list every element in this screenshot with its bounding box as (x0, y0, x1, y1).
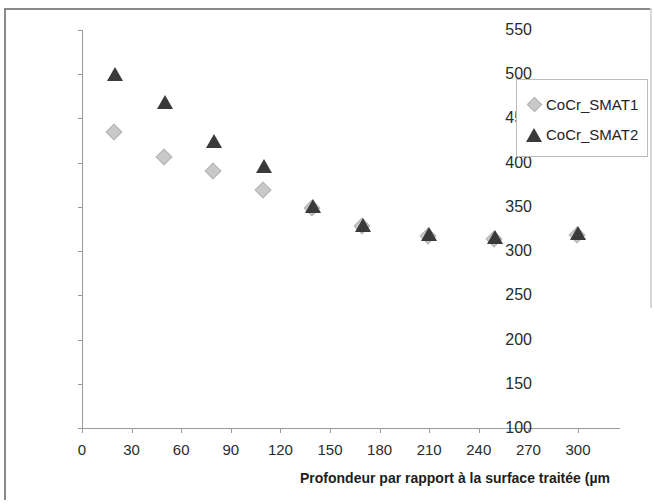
legend-label: CoCr_SMAT2 (546, 127, 638, 142)
x-axis-tick-label: 300 (553, 442, 603, 457)
figure-border-right (650, 8, 652, 308)
x-axis-tick-label: 120 (255, 442, 305, 457)
x-axis-tick-label: 270 (503, 442, 553, 457)
y-axis-tick-label: 200 (486, 332, 532, 348)
y-axis-tick-label: 550 (486, 22, 532, 38)
y-axis-tick-label: 100 (486, 420, 532, 436)
y-axis-tick (78, 163, 83, 164)
chart-figure: 1001502002503003504004505005500306090120… (0, 0, 654, 504)
y-axis-tick (78, 295, 83, 296)
y-axis-tick (78, 384, 83, 385)
y-axis-tick (78, 340, 83, 341)
x-axis-tick-label: 90 (206, 442, 256, 457)
x-axis-tick (181, 428, 182, 433)
y-axis-tick (78, 118, 83, 119)
legend-label: CoCr_SMAT1 (546, 97, 638, 112)
x-axis-tick (429, 428, 430, 433)
x-axis-tick (132, 428, 133, 433)
triangle-marker-icon (525, 125, 543, 143)
legend: CoCr_SMAT1 CoCr_SMAT2 (516, 79, 648, 157)
x-axis-tick (280, 428, 281, 433)
x-axis-tick (528, 428, 529, 433)
x-axis-tick (479, 428, 480, 433)
y-axis-tick (78, 207, 83, 208)
y-axis-tick-label: 250 (486, 287, 532, 303)
x-axis-tick (380, 428, 381, 433)
y-axis-tick-label: 400 (486, 155, 532, 171)
y-axis-line (82, 30, 83, 428)
y-axis-tick (78, 30, 83, 31)
diamond-marker-icon (525, 95, 543, 113)
y-axis-tick (78, 251, 83, 252)
legend-item-cocr-smat1[interactable]: CoCr_SMAT1 (525, 94, 638, 114)
x-axis-tick-label: 60 (156, 442, 206, 457)
y-axis-tick-label: 350 (486, 199, 532, 215)
x-axis-tick-label: 240 (454, 442, 504, 457)
x-axis-tick-label: 180 (355, 442, 405, 457)
x-axis-tick-label: 30 (107, 442, 157, 457)
x-axis-tick (578, 428, 579, 433)
x-axis-line (82, 428, 620, 429)
x-axis-tick-label: 150 (305, 442, 355, 457)
y-axis-tick (78, 74, 83, 75)
y-axis-tick-label: 150 (486, 376, 532, 392)
x-axis-tick (231, 428, 232, 433)
legend-item-cocr-smat2[interactable]: CoCr_SMAT2 (525, 124, 638, 144)
x-axis-tick-label: 210 (404, 442, 454, 457)
x-axis-tick (82, 428, 83, 433)
x-axis-tick (330, 428, 331, 433)
x-axis-title: Profondeur par rapport à la surface trai… (300, 470, 610, 486)
x-axis-tick-label: 0 (57, 442, 107, 457)
